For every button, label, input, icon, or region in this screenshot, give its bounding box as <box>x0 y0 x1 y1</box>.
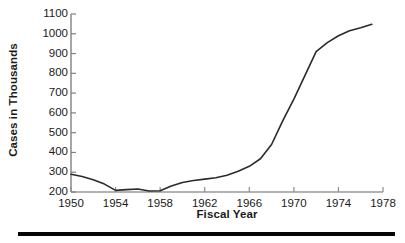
x-axis-tick-labels: 19501954195819621966197019741978 <box>0 0 405 243</box>
x-axis-title: Fiscal Year <box>71 208 383 220</box>
chart-figure: Cases in Thousands 200300400500600700800… <box>0 0 405 243</box>
bottom-rule-divider <box>18 232 395 236</box>
